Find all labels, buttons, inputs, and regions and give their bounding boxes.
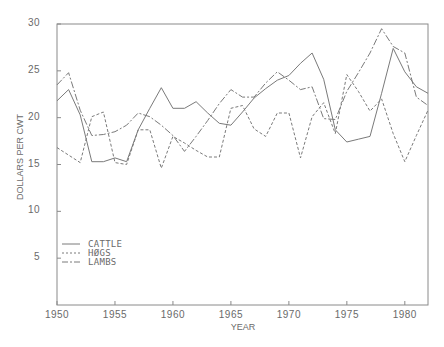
solid-line-swatch-icon <box>62 241 80 247</box>
legend-label: LAMBS <box>88 257 117 267</box>
x-tick-label: 1975 <box>327 309 367 320</box>
y-axis-title: DOLLARS PER CWT <box>15 114 25 200</box>
y-tick-label: 5 <box>10 251 40 262</box>
x-tick-label: 1965 <box>211 309 251 320</box>
x-axis-title: YEAR <box>231 322 256 332</box>
dash-dot-line-swatch-icon <box>62 259 80 265</box>
x-tick-label: 1980 <box>385 309 425 320</box>
y-tick-label: 30 <box>10 17 40 28</box>
y-tick-label: 10 <box>10 204 40 215</box>
y-tick-label: 25 <box>10 64 40 75</box>
series-line-hogs <box>57 75 428 169</box>
x-tick-label: 1955 <box>95 309 135 320</box>
legend-item-lambs: LAMBS <box>62 257 122 266</box>
dashed-line-swatch-icon <box>62 250 80 256</box>
line-chart <box>0 0 444 347</box>
legend: CATTLE HØGS LAMBS <box>62 239 122 266</box>
x-tick-label: 1950 <box>37 309 77 320</box>
series-line-lambs <box>57 29 428 152</box>
x-tick-label: 1970 <box>269 309 309 320</box>
series-lines <box>57 29 428 169</box>
x-tick-label: 1960 <box>153 309 193 320</box>
